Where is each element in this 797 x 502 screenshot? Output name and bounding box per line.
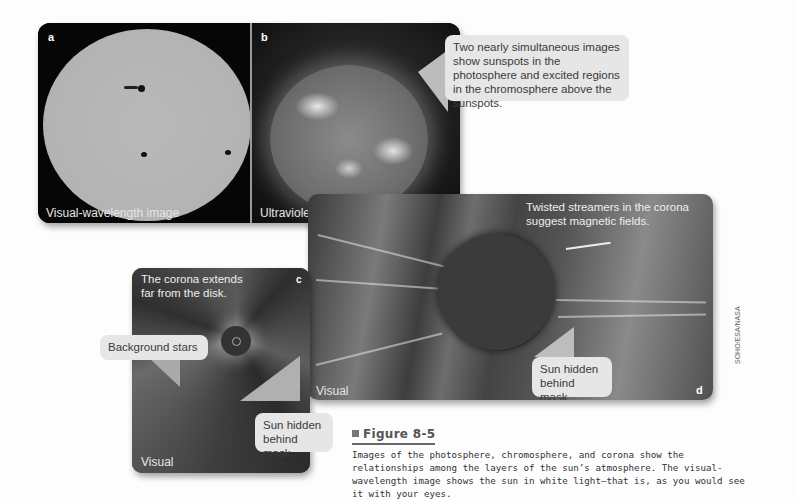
panel-ab-photosphere-chromosphere: a Visual-wavelength image b Ultraviolet [38,23,460,223]
sun-position-marker [232,337,241,346]
sun-disk-ultraviolet [270,65,428,213]
coronal-streamer [316,333,443,366]
sunspot [225,150,231,155]
callout-sun-hidden-d: Sun hidden behind mask [532,357,612,397]
sunspot-group [124,86,138,89]
callout-pointer [534,327,574,357]
callout-pointer [418,50,448,112]
twisted-streamer [566,242,611,250]
panel-a-visual-image: a Visual-wavelength image [38,23,251,223]
figure-caption: Images of the photosphere, chromosphere,… [352,448,752,500]
callout-background-stars: Background stars [100,335,208,360]
panel-d-corona-streamers: Twisted streamers in the corona suggest … [308,194,713,400]
panel-caption-c: Visual [141,455,173,469]
panel-note-c: The corona extends far from the disk. [141,272,251,300]
panel-label-a: a [48,31,54,43]
callout-sun-hidden-c: Sun hidden behind mask [255,413,333,452]
figure-title-text: Figure 8-5 [363,427,435,441]
coronal-streamer [316,279,441,290]
coronal-streamer [556,299,706,304]
panel-label-c: c [296,274,302,285]
panel-note-d: Twisted streamers in the corona suggest … [526,200,706,228]
callout-pointer [240,356,300,401]
figure-title: Figure 8-5 [352,427,435,445]
panel-caption-d: Visual [316,384,348,398]
panel-label-d: d [696,384,703,396]
coronal-streamer [318,234,445,267]
callout-sunspots-note: Two nearly simultaneous images show suns… [445,35,629,101]
coronal-streamer [558,313,706,318]
sunspot [138,85,145,92]
callout-pointer [148,357,180,387]
sun-disk-visual [43,29,251,221]
panel-label-b: b [261,31,268,43]
square-bullet-icon [352,430,359,437]
panel-caption-b: Ultraviolet [260,206,313,220]
image-credit: SOHO/ESA/NASA [734,306,741,364]
sunspot [141,152,147,157]
panel-caption-a: Visual-wavelength image [46,206,179,220]
